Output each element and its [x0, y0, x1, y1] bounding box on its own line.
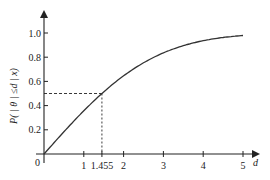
y-tick-label: 1.0	[29, 28, 42, 39]
cdf-curve	[44, 36, 243, 155]
y-ticks: 0.20.40.60.81.0	[29, 28, 49, 136]
y-tick-label: 0.2	[29, 124, 42, 135]
x-tick-label: 3	[161, 160, 166, 171]
x-tick-label: 1.455	[91, 160, 114, 171]
y-tick-label: 0.4	[29, 100, 42, 111]
chart: 11.4552345 0.20.40.60.81.0 0 d P( | θ | …	[0, 0, 270, 180]
x-tick-label: 4	[201, 160, 206, 171]
origin-label: 0	[35, 157, 40, 168]
x-tick-label: 2	[121, 160, 126, 171]
x-tick-label: 5	[241, 160, 246, 171]
y-axis-label: P( | θ | ≤d | x)	[8, 67, 20, 125]
y-tick-label: 0.8	[29, 52, 42, 63]
x-tick-label: 1	[81, 160, 86, 171]
y-tick-label: 0.6	[29, 76, 42, 87]
x-axis-label: d	[253, 157, 259, 168]
